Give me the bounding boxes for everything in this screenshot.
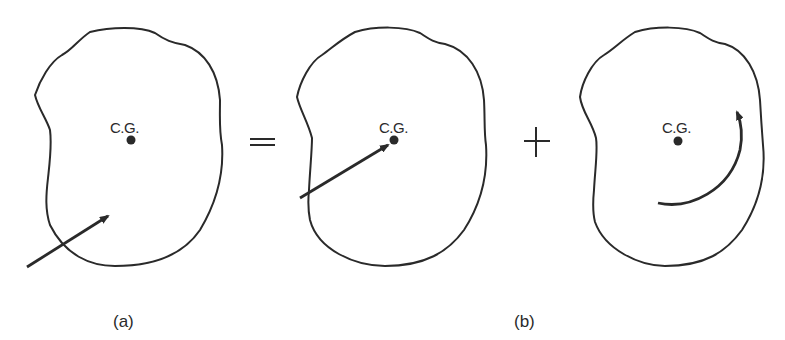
body-outline-a [35,28,222,266]
cg-dot-b-rotation [674,137,683,146]
plus-sign [524,127,550,157]
cg-dot-a [127,136,136,145]
caption-a: (a) [113,312,134,332]
force-arrow-b-through-cg [300,145,388,198]
cg-label-b-rotation: C.G. [662,119,691,136]
body-outline-b-rotation [580,28,764,266]
cg-label-a: C.G. [110,119,139,136]
cg-label-b-translation: C.G. [379,119,408,136]
caption-b: (b) [514,312,535,332]
force-arrow-a [27,216,108,267]
body-outline-b-translation [297,28,486,266]
cg-dot-b-translation [390,136,399,145]
diagram-canvas [0,0,785,340]
equals-sign [250,139,275,145]
